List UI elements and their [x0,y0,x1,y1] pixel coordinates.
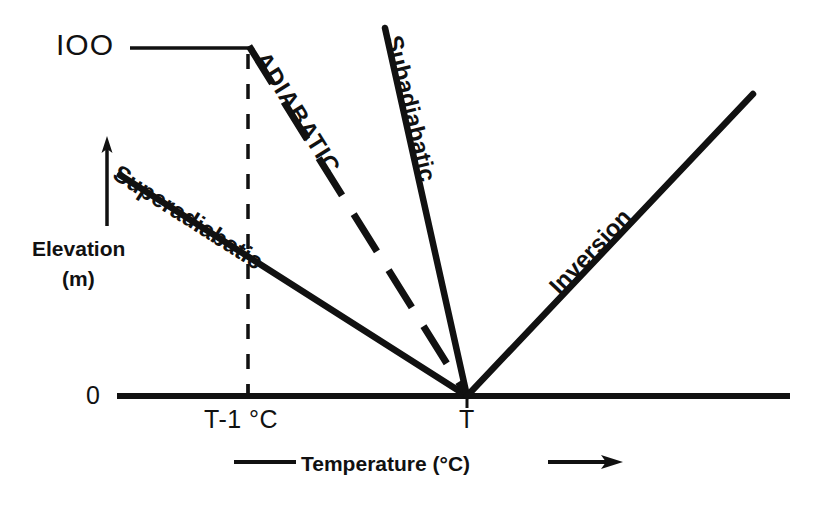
y-axis-title: Elevation [32,238,125,259]
y-tick-label-0: 0 [86,383,100,408]
temperature-lapse-rate-figure: IOO 0 T-1 °C T Elevation (m) Temperature… [0,0,816,509]
x-axis-title: Temperature (°C) [301,453,470,474]
y-tick-label-100: IOO [56,30,114,60]
x-tick-label-t-minus-one: T-1 °C [204,407,278,432]
x-tick-label-t: T [459,407,474,432]
y-axis-title-units: (m) [62,268,95,289]
